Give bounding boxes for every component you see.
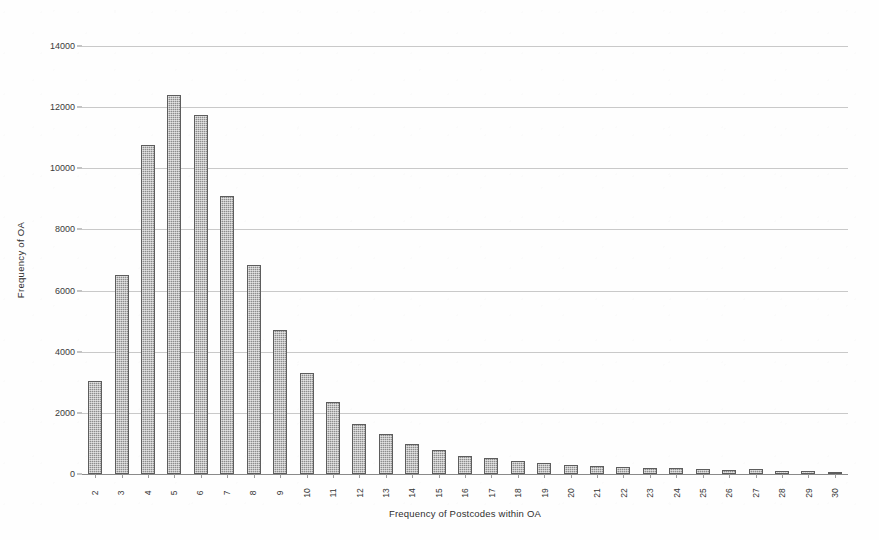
- x-tick-label: 20: [566, 488, 576, 497]
- x-tick-label: 3: [117, 491, 127, 496]
- x-tick-label-wrap: 19: [537, 482, 551, 500]
- x-tick-label: 23: [645, 488, 655, 497]
- bar: [458, 456, 472, 474]
- x-axis-title: Frequency of Postcodes within OA: [82, 508, 848, 519]
- x-tick-label: 12: [354, 488, 364, 497]
- x-tick-mark: [782, 474, 783, 478]
- x-tick-mark: [491, 474, 492, 478]
- x-tick-label: 10: [302, 488, 312, 497]
- bar: [167, 95, 181, 474]
- y-tick-label: 10000: [50, 163, 75, 173]
- bar: [273, 330, 287, 474]
- y-tick-label: 14000: [50, 41, 75, 51]
- x-tick-label: 30: [830, 488, 840, 497]
- x-tick-mark: [729, 474, 730, 478]
- bar: [115, 275, 129, 474]
- x-tick-label-wrap: 9: [273, 482, 287, 500]
- x-tick-mark: [544, 474, 545, 478]
- x-tick-label-wrap: 21: [590, 482, 604, 500]
- bar: [194, 115, 208, 474]
- y-tick-label: 8000: [55, 224, 75, 234]
- x-tick-label: 5: [169, 491, 179, 496]
- x-tick-label-wrap: 15: [432, 482, 446, 500]
- x-tick-label: 6: [196, 491, 206, 496]
- x-tick-mark: [333, 474, 334, 478]
- x-tick-label: 8: [249, 491, 259, 496]
- bar: [405, 444, 419, 474]
- x-tick-mark: [174, 474, 175, 478]
- x-tick-label-wrap: 17: [484, 482, 498, 500]
- bar-chart-figure: Frequency of OA 020004000600080001000012…: [0, 0, 879, 540]
- x-tick-mark: [280, 474, 281, 478]
- x-tick-label: 7: [222, 491, 232, 496]
- y-axis-title: Frequency of OA: [12, 46, 28, 474]
- y-tick-label: 2000: [55, 408, 75, 418]
- x-tick-label-wrap: 29: [801, 482, 815, 500]
- y-tick-label: 4000: [55, 347, 75, 357]
- x-tick-label-wrap: 3: [115, 482, 129, 500]
- x-tick-mark: [703, 474, 704, 478]
- x-tick-mark: [835, 474, 836, 478]
- x-tick-label: 13: [381, 488, 391, 497]
- y-tick-mark: [77, 168, 82, 169]
- x-tick-label-wrap: 11: [326, 482, 340, 500]
- bar: [537, 463, 551, 474]
- x-tick-mark: [412, 474, 413, 478]
- x-tick-label: 25: [698, 488, 708, 497]
- plot-area: 02000400060008000100001200014000 2345678…: [82, 46, 848, 474]
- x-tick-label: 16: [460, 488, 470, 497]
- bar: [326, 402, 340, 474]
- x-tick-mark: [676, 474, 677, 478]
- bar: [352, 424, 366, 474]
- y-tick-mark: [77, 107, 82, 108]
- x-tick-mark: [386, 474, 387, 478]
- bar: [511, 461, 525, 474]
- x-tick-mark: [808, 474, 809, 478]
- x-tick-mark: [227, 474, 228, 478]
- x-tick-mark: [623, 474, 624, 478]
- y-axis-title-text: Frequency of OA: [15, 222, 26, 298]
- x-tick-label: 9: [275, 491, 285, 496]
- gridline: [82, 107, 848, 108]
- x-tick-label-wrap: 6: [194, 482, 208, 500]
- x-tick-label: 28: [777, 488, 787, 497]
- y-tick-label: 6000: [55, 286, 75, 296]
- y-tick-mark: [77, 290, 82, 291]
- bar: [88, 381, 102, 474]
- x-tick-mark: [597, 474, 598, 478]
- x-tick-label-wrap: 7: [220, 482, 234, 500]
- x-tick-label: 4: [143, 491, 153, 496]
- bar: [432, 450, 446, 474]
- x-tick-mark: [439, 474, 440, 478]
- y-tick-mark: [77, 412, 82, 413]
- x-tick-label: 22: [618, 488, 628, 497]
- x-tick-label-wrap: 8: [247, 482, 261, 500]
- bar: [220, 196, 234, 474]
- x-tick-label-wrap: 20: [564, 482, 578, 500]
- x-tick-label-wrap: 5: [167, 482, 181, 500]
- x-tick-label: 17: [486, 488, 496, 497]
- x-tick-label: 21: [592, 488, 602, 497]
- x-tick-label: 26: [724, 488, 734, 497]
- bar: [564, 465, 578, 474]
- bar: [484, 458, 498, 475]
- bar: [379, 434, 393, 474]
- x-tick-label: 14: [407, 488, 417, 497]
- x-tick-label: 19: [539, 488, 549, 497]
- x-tick-label-wrap: 30: [828, 482, 842, 500]
- bar: [616, 467, 630, 474]
- x-tick-label-wrap: 4: [141, 482, 155, 500]
- x-tick-label-wrap: 23: [643, 482, 657, 500]
- x-tick-label-wrap: 28: [775, 482, 789, 500]
- x-tick-label-wrap: 24: [669, 482, 683, 500]
- bar: [141, 145, 155, 474]
- x-tick-label: 29: [803, 488, 813, 497]
- x-tick-mark: [148, 474, 149, 478]
- x-tick-label-wrap: 25: [696, 482, 710, 500]
- x-tick-label: 11: [328, 489, 338, 498]
- x-tick-mark: [518, 474, 519, 478]
- x-tick-mark: [95, 474, 96, 478]
- x-tick-label-wrap: 26: [722, 482, 736, 500]
- x-tick-mark: [650, 474, 651, 478]
- y-tick-label: 12000: [50, 102, 75, 112]
